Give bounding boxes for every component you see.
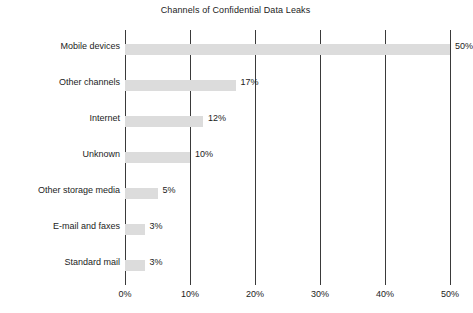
x-tick-label: 50% <box>441 289 459 299</box>
x-tick-label: 10% <box>181 289 199 299</box>
x-tick-label: 0% <box>118 289 131 299</box>
x-tick-label: 20% <box>246 289 264 299</box>
bar-value-label: 10% <box>195 149 213 159</box>
category-label: Internet <box>2 113 120 123</box>
bar <box>125 44 450 55</box>
bar-value-label: 50% <box>455 41 473 51</box>
bar <box>125 152 190 163</box>
bar <box>125 260 145 271</box>
bar <box>125 80 236 91</box>
category-label: E-mail and faxes <box>2 221 120 231</box>
bar-row: 3% <box>125 248 450 284</box>
x-tick-label: 40% <box>376 289 394 299</box>
bar-row: 5% <box>125 176 450 212</box>
x-tick-label: 30% <box>311 289 329 299</box>
chart-title: Channels of Confidential Data Leaks <box>0 5 471 15</box>
bar-value-label: 3% <box>150 221 163 231</box>
bar <box>125 116 203 127</box>
bar-value-label: 5% <box>163 185 176 195</box>
bar-value-label: 17% <box>241 77 259 87</box>
category-label: Unknown <box>2 149 120 159</box>
bar-row: 3% <box>125 212 450 248</box>
bar-value-label: 3% <box>150 257 163 267</box>
bar-row: 17% <box>125 68 450 104</box>
bar <box>125 224 145 235</box>
bar <box>125 188 158 199</box>
category-label: Standard mail <box>2 257 120 267</box>
gridline-50pct <box>450 30 451 285</box>
category-axis-labels: Mobile devicesOther channelsInternetUnkn… <box>0 30 120 285</box>
category-label: Other channels <box>2 77 120 87</box>
x-axis-tick-labels: 0%10%20%30%40%50% <box>125 289 465 305</box>
category-label: Other storage media <box>2 185 120 195</box>
category-label: Mobile devices <box>2 41 120 51</box>
bar-row: 10% <box>125 140 450 176</box>
plot-area: 50%17%12%10%5%3%3% <box>125 30 450 285</box>
bar-value-label: 12% <box>208 113 226 123</box>
bar-row: 50% <box>125 32 450 68</box>
bar-row: 12% <box>125 104 450 140</box>
